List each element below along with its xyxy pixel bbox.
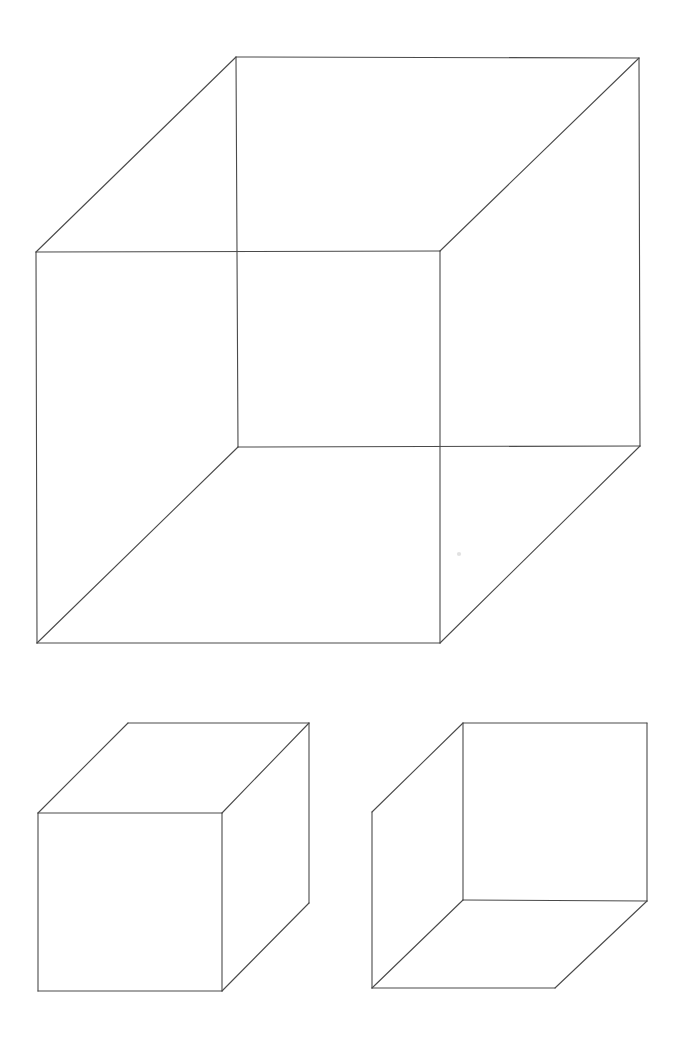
cube-edge-front_bottom_left-to-back_bottom_left: [37, 447, 238, 643]
cube-edge-front_top_left-to-front_top_right: [36, 251, 440, 252]
cube-edge-front_top_left-to-back_top_left: [36, 57, 236, 252]
cube-edge-front_top_right-to-back_top_right: [440, 58, 639, 251]
cube-edge-back_bottom_right-to-back_bottom_left: [463, 900, 647, 901]
cube-edge-back_top_left-to-back_top_right: [236, 57, 639, 58]
cube-edge-front_bottom_right-to-back_bottom_right: [440, 446, 640, 643]
cube-edge-front_top_right-to-back_top_right: [222, 723, 309, 813]
figure-cube-solid-left: [38, 723, 309, 991]
cube-edge-front_bottom_left-to-front_top_left: [36, 252, 37, 643]
cube-edge-front_bottom_right-to-back_bottom_right: [222, 903, 309, 991]
figure-sheet: [0, 0, 693, 1052]
pencil-marks-layer: [457, 552, 461, 556]
cube-edge-back_top_right-to-back_bottom_right: [639, 58, 640, 446]
pencil-smudge: [457, 552, 461, 556]
cube-edge-front_top_left-to-back_top_left: [38, 723, 128, 813]
figure-cube-hollow-right: [372, 723, 647, 988]
cube-illustration-canvas: [0, 0, 693, 1052]
cube-edge-back_top_left-to-front_top_left: [372, 723, 463, 812]
cube-edge-back_bottom_right-to-back_bottom_left: [238, 446, 640, 447]
figure-necker-cube-large: [36, 57, 640, 643]
cube-edge-back_bottom_left-to-front_bottom_left: [372, 900, 463, 988]
cube-edge-back_bottom_right-to-front_bottom_right: [555, 901, 647, 988]
